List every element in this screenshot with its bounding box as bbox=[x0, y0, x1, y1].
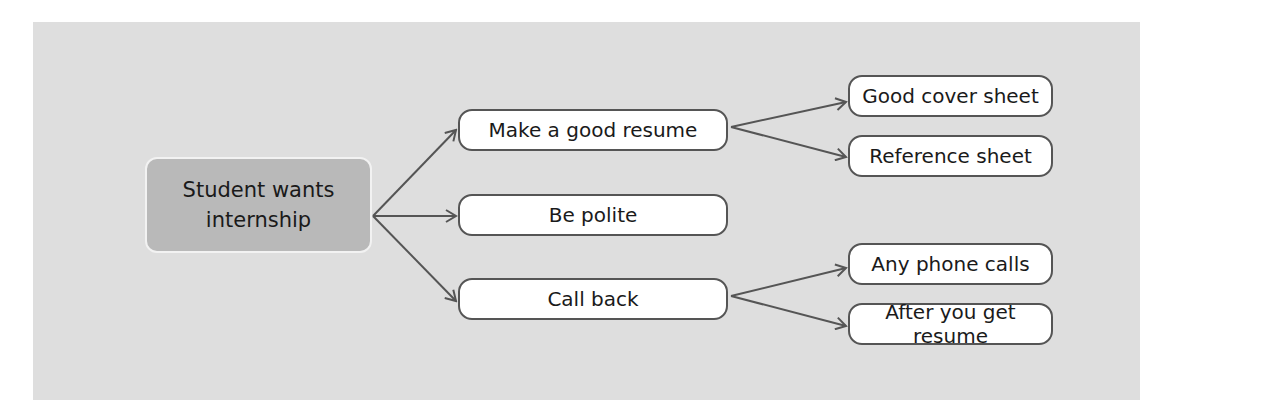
root-node-student-wants-internship: Student wants internship bbox=[145, 157, 372, 253]
node-be-polite: Be polite bbox=[458, 194, 728, 236]
node-any-phone-calls: Any phone calls bbox=[848, 243, 1053, 285]
root-node-line1: Student wants bbox=[183, 175, 335, 205]
root-node-line2: internship bbox=[206, 205, 311, 235]
node-good-cover-sheet: Good cover sheet bbox=[848, 75, 1053, 117]
arrow-resume-to-cover bbox=[731, 102, 846, 127]
node-make-a-good-resume: Make a good resume bbox=[458, 109, 728, 151]
node-reference-sheet: Reference sheet bbox=[848, 135, 1053, 177]
arrow-root-to-callback bbox=[373, 216, 456, 301]
arrow-resume-to-reference bbox=[731, 127, 846, 157]
arrow-callback-to-phone bbox=[731, 268, 846, 296]
arrow-callback-to-after bbox=[731, 296, 846, 326]
node-call-back: Call back bbox=[458, 278, 728, 320]
node-after-you-get-resume: After you get resume bbox=[848, 303, 1053, 345]
arrow-root-to-resume bbox=[373, 130, 456, 216]
